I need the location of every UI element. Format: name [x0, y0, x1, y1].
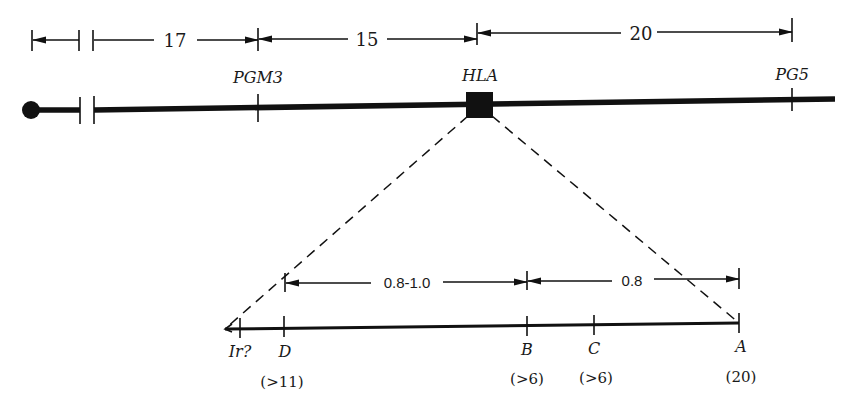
locus-label-pg5: PG5 — [774, 65, 809, 84]
chromosome-6-map: PGM3 HLA PG5 — [22, 65, 835, 124]
locus-label-a: A — [733, 337, 747, 356]
locus-value-a: (20) — [726, 368, 757, 386]
distance-label-0-8: 0.8 — [622, 272, 643, 289]
zoom-expansion-lines — [226, 116, 739, 328]
dashed-line-left — [226, 116, 468, 328]
locus-label-pgm3: PGM3 — [232, 68, 283, 87]
hla-region-line — [225, 323, 739, 329]
distance-label-17: 17 — [164, 30, 187, 51]
locus-value-c: (>6) — [579, 369, 613, 387]
distance-label-0-8-1-0: 0.8-1.0 — [384, 274, 431, 291]
hla-locus-box — [466, 92, 493, 118]
distance-label-20: 20 — [630, 23, 653, 44]
locus-label-c: C — [588, 339, 600, 358]
locus-label-b: B — [520, 340, 533, 359]
hla-genetic-map-diagram: 17 15 20 PGM3 HLA PG5 — [0, 0, 855, 417]
locus-value-b: (>6) — [510, 370, 544, 388]
locus-value-d: (>11) — [260, 373, 303, 391]
hla-region-detail-map: Ir? D (>11) B (>6) C (>6) A (20) — [225, 313, 756, 391]
detail-distance-ruler: 0.8-1.0 0.8 — [285, 268, 739, 292]
top-distance-ruler: 17 15 20 — [32, 18, 792, 51]
distance-label-15: 15 — [356, 29, 379, 50]
locus-label-hla: HLA — [461, 66, 498, 85]
chromosome-segment — [94, 99, 835, 110]
dashed-line-right — [492, 116, 739, 323]
locus-label-ir: Ir? — [228, 342, 252, 361]
locus-label-d: D — [278, 342, 292, 361]
